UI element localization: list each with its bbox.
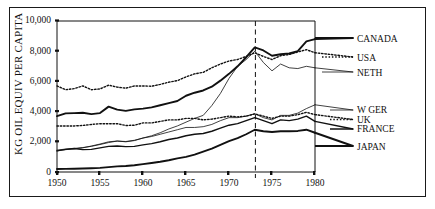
x-tick-label: 1955 — [91, 178, 110, 188]
x-tick-label: 1970 — [220, 178, 239, 188]
legend-label-uk: UK — [357, 115, 371, 125]
y-tick-label: 4,000 — [30, 106, 52, 116]
y-tick-10000: 10,000 — [25, 15, 59, 25]
x-tick-1970: 1970 — [220, 171, 239, 188]
y-tick-4000: 4,000 — [30, 106, 59, 116]
series-leader-uk — [315, 115, 353, 120]
figure-container: KG OIL EQUIV PER CAPITA 0 2,000 4,000 6,… — [0, 0, 435, 209]
legend-item-uk: UK — [330, 115, 371, 125]
legend: CANADA USA NETH W GER UK FRANCE — [315, 34, 398, 152]
x-tick-1960: 1960 — [134, 171, 153, 188]
legend-item-japan: JAPAN — [315, 142, 386, 152]
x-tick-1965: 1965 — [177, 171, 196, 188]
y-tick-label: 10,000 — [25, 15, 51, 25]
series-line-w-ger — [57, 105, 315, 150]
y-tick-label: 2,000 — [30, 136, 52, 146]
y-axis-title: KG OIL EQUIV PER CAPITA — [12, 13, 24, 155]
legend-label-neth: NETH — [357, 68, 382, 78]
series-leader-japan — [315, 133, 353, 146]
x-tick-1975: 1975 — [263, 171, 282, 188]
legend-item-wger: W GER — [330, 105, 388, 115]
y-tick-label: 6,000 — [30, 76, 52, 86]
legend-label-wger: W GER — [357, 105, 388, 115]
x-tick-1955: 1955 — [91, 171, 110, 188]
series-leader-neth — [315, 68, 353, 72]
y-tick-label: 8,000 — [30, 46, 52, 56]
x-tick-1980: 1980 — [306, 171, 325, 188]
legend-label-canada: CANADA — [357, 34, 398, 44]
x-tick-label: 1965 — [177, 178, 196, 188]
y-tick-2000: 2,000 — [30, 136, 59, 146]
legend-item-canada: CANADA — [315, 34, 398, 44]
series-leader-w-ger — [315, 105, 353, 110]
y-tick-label: 0 — [46, 167, 51, 177]
x-tick-label: 1950 — [48, 178, 67, 188]
data-series-layer — [57, 38, 353, 169]
series-leader-france — [315, 121, 353, 129]
x-tick-label: 1980 — [306, 178, 325, 188]
energy-consumption-line-chart: KG OIL EQUIV PER CAPITA 0 2,000 4,000 6,… — [0, 0, 435, 209]
legend-item-france: FRANCE — [330, 124, 395, 134]
legend-item-neth: NETH — [322, 68, 382, 78]
y-axis-ticks: 0 2,000 4,000 6,000 8,000 10,000 — [25, 15, 59, 177]
y-tick-8000: 8,000 — [30, 46, 59, 56]
legend-label-japan: JAPAN — [357, 142, 386, 152]
x-tick-label: 1960 — [134, 178, 153, 188]
x-tick-label: 1975 — [263, 178, 282, 188]
series-leader-usa — [315, 53, 353, 57]
legend-label-usa: USA — [357, 53, 376, 63]
legend-label-france: FRANCE — [357, 124, 395, 134]
y-tick-6000: 6,000 — [30, 76, 59, 86]
x-axis-ticks: 1950 1955 1960 1965 1970 1975 — [48, 171, 325, 188]
